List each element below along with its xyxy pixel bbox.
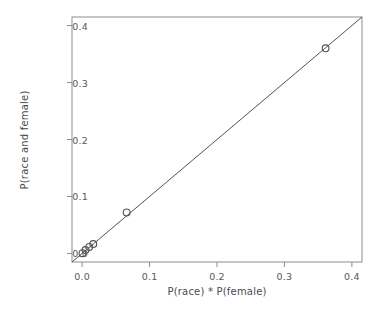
x-tick-label: 0.1 (142, 271, 158, 282)
x-axis-title: P(race) * P(female) (167, 286, 266, 297)
x-tick-label: 0.2 (209, 271, 225, 282)
x-tick-label: 0.3 (277, 271, 293, 282)
plot-canvas (0, 0, 384, 313)
y-tick-label: 0.3 (62, 77, 88, 88)
y-tick-label: 0.2 (62, 134, 88, 145)
identity-reference-line (72, 17, 362, 262)
x-axis-tick-marks (82, 262, 352, 267)
y-tick-label: 0.0 (62, 248, 88, 259)
y-axis-title: P(race and female) (19, 91, 30, 190)
x-tick-label: 0.0 (74, 271, 90, 282)
data-point (123, 209, 130, 216)
y-tick-label: 0.4 (62, 20, 88, 31)
reference-line (72, 17, 362, 262)
y-tick-label: 0.1 (62, 191, 88, 202)
scatter-plot-figure: 0.00.10.20.30.4 0.00.10.20.30.4 P(race) … (0, 0, 384, 313)
x-tick-label: 0.4 (344, 271, 360, 282)
